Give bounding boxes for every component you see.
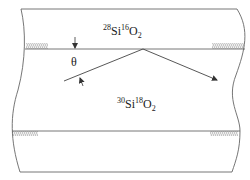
bottom-o-element: O xyxy=(143,97,152,111)
hatching xyxy=(12,43,244,136)
hatch-bottom-left xyxy=(12,131,38,136)
incident-arrow-icon xyxy=(80,78,83,86)
top-si-mass: 28 xyxy=(103,23,111,32)
left-wavy-edge xyxy=(12,9,24,172)
top-o-count: 2 xyxy=(138,31,142,40)
top-layer-label: 28Si16O2 xyxy=(103,22,142,40)
hatch-top-left xyxy=(26,43,48,49)
right-wavy-edge xyxy=(232,9,245,172)
xray-beam xyxy=(64,49,217,81)
angle-theta-label: θ xyxy=(71,56,77,68)
theta-symbol: θ xyxy=(71,55,77,69)
bottom-o-mass: 18 xyxy=(135,96,143,105)
interfaces xyxy=(12,49,245,131)
bottom-si-mass: 30 xyxy=(117,96,125,105)
reflected-ray xyxy=(143,49,217,80)
bottom-o-count: 2 xyxy=(152,104,156,113)
top-o-mass: 16 xyxy=(121,23,129,32)
bottom-layer-label: 30Si18O2 xyxy=(117,95,156,113)
hatch-top-right xyxy=(212,43,244,49)
bottom-si-element: Si xyxy=(125,97,135,111)
top-si-element: Si xyxy=(111,24,121,38)
top-o-element: O xyxy=(129,24,138,38)
hatch-bottom-right xyxy=(210,131,238,136)
